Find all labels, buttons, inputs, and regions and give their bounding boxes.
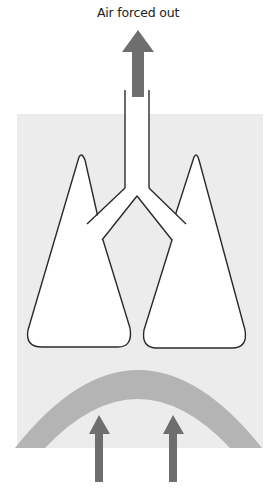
arrow-up-icon	[122, 30, 154, 97]
lungs-diagram	[0, 0, 275, 490]
